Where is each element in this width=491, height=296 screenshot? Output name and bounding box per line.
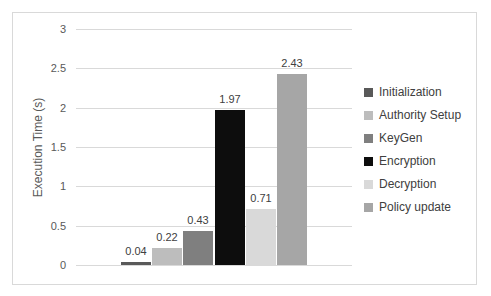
bar-decryption [246, 209, 276, 265]
plot-area: 0.040.220.431.970.712.43 [76, 29, 352, 265]
legend-label: Authority Setup [379, 108, 461, 122]
legend-label: Encryption [379, 154, 436, 168]
legend-label: KeyGen [379, 131, 422, 145]
gridline [76, 265, 352, 266]
bar-value-label: 2.43 [270, 57, 314, 70]
y-tick-label: 3 [6, 22, 66, 36]
bar-chart: Execution Time (s) 32.521.510.50 0.040.2… [0, 0, 491, 296]
gridline [76, 186, 352, 187]
legend-swatch [364, 180, 373, 189]
legend-swatch [364, 157, 373, 166]
y-tick-label: 0 [6, 258, 66, 272]
legend-swatch [364, 88, 373, 97]
bar-value-label: 0.43 [176, 214, 220, 227]
legend-item-initialization: Initialization [364, 85, 442, 99]
legend-item-policy-update: Policy update [364, 200, 451, 214]
legend-label: Initialization [379, 85, 442, 99]
gridline [76, 108, 352, 109]
legend-item-keygen: KeyGen [364, 131, 422, 145]
legend-label: Decryption [379, 177, 436, 191]
legend-item-decryption: Decryption [364, 177, 436, 191]
bar-initialization [121, 262, 151, 265]
y-tick-label: 1 [6, 179, 66, 193]
legend-swatch [364, 203, 373, 212]
bar-authority-setup [152, 248, 182, 265]
bar-encryption [215, 110, 245, 265]
y-tick-label: 2.5 [6, 61, 66, 75]
gridline [76, 147, 352, 148]
y-tick-label: 0.5 [6, 219, 66, 233]
legend-label: Policy update [379, 200, 451, 214]
legend-item-authority-setup: Authority Setup [364, 108, 461, 122]
bar-keygen [183, 231, 213, 265]
bar-policy-update [277, 74, 307, 265]
bar-value-label: 1.97 [208, 93, 252, 106]
legend-swatch [364, 134, 373, 143]
legend-swatch [364, 111, 373, 120]
legend-item-encryption: Encryption [364, 154, 436, 168]
y-tick-label: 1.5 [6, 140, 66, 154]
y-tick-label: 2 [6, 101, 66, 115]
gridline [76, 29, 352, 30]
